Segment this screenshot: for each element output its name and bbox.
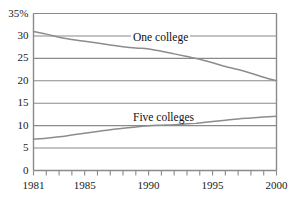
y-axis-tick-label: 20: [0, 75, 29, 86]
x-axis-tick-label: 1985: [66, 180, 104, 191]
chart-canvas: [0, 0, 292, 199]
y-axis-tick-label: 25: [0, 52, 29, 63]
series-label-1: One college: [131, 31, 190, 43]
y-axis-tick-label: 30: [0, 30, 29, 41]
series-label-2: Five colleges: [131, 111, 196, 123]
y-axis-tick-label: 0: [0, 165, 29, 176]
y-axis-tick-label: 5: [0, 142, 29, 153]
line-chart: 05101520253035% 19811985199019952000 One…: [0, 0, 292, 199]
x-axis-tick-label: 1981: [15, 180, 53, 191]
x-axis-tick-label: 2000: [258, 180, 293, 191]
x-axis-tick-label: 1990: [130, 180, 168, 191]
y-axis-tick-label: 35%: [0, 8, 29, 19]
x-axis-tick-label: 1995: [194, 180, 232, 191]
y-axis-tick-label: 15: [0, 97, 29, 108]
y-axis-tick-label: 10: [0, 120, 29, 131]
